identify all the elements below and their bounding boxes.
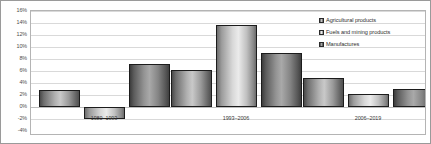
y-axis-tick: 14% bbox=[17, 20, 28, 25]
legend-item-label: Fuels and mining products bbox=[326, 29, 390, 35]
y-axis-tick: 4% bbox=[19, 80, 27, 85]
y-axis-tick: 10% bbox=[17, 44, 28, 49]
bar-fuels-and-mining-products-1993-2006 bbox=[216, 25, 257, 107]
y-axis-tick: 12% bbox=[17, 32, 28, 37]
y-axis: 16% 14% 12% 10% 8% 6% 4% 2% 0% -2% -4% bbox=[1, 1, 29, 144]
y-axis-tick: 6% bbox=[19, 68, 27, 73]
legend-item-agricultural-products[interactable]: Agricultural products bbox=[319, 14, 425, 26]
bar-agricultural-products-2006-2019 bbox=[303, 78, 344, 107]
bar-manufactures-1980-1993 bbox=[129, 64, 170, 107]
x-axis-label-group-2: 1993–2006 bbox=[223, 115, 250, 121]
y-axis-tick: 0% bbox=[19, 104, 27, 109]
x-axis-label-group-3: 2006–2019 bbox=[355, 115, 382, 121]
y-axis-tick: 16% bbox=[17, 8, 28, 13]
bar-fuels-and-mining-products-2006-2019 bbox=[348, 94, 389, 107]
legend-swatch-icon bbox=[319, 18, 324, 23]
legend-item-label: Manufactures bbox=[326, 41, 359, 47]
y-axis-tick: -4% bbox=[18, 128, 27, 133]
bar-agricultural-products-1980-1993 bbox=[39, 90, 80, 107]
legend: Agricultural products Fuels and mining p… bbox=[319, 14, 425, 50]
legend-swatch-icon bbox=[319, 42, 324, 47]
bar-manufactures-2006-2019 bbox=[393, 89, 426, 107]
legend-item-fuels-and-mining-products[interactable]: Fuels and mining products bbox=[319, 26, 425, 38]
x-axis-label-group-1: 1980–1993 bbox=[91, 115, 118, 121]
gridline bbox=[31, 11, 425, 12]
y-axis-tick: 8% bbox=[19, 56, 27, 61]
legend-swatch-icon bbox=[319, 30, 324, 35]
bar-manufactures-1993-2006 bbox=[261, 53, 302, 107]
bar-agricultural-products-1993-2006 bbox=[171, 70, 212, 107]
legend-item-manufactures[interactable]: Manufactures bbox=[319, 38, 425, 50]
y-axis-tick: 2% bbox=[19, 92, 27, 97]
legend-item-label: Agricultural products bbox=[326, 17, 376, 23]
chart-container: 16% 14% 12% 10% 8% 6% 4% 2% 0% -2% -4% bbox=[0, 0, 431, 144]
y-axis-tick: -2% bbox=[18, 116, 27, 121]
